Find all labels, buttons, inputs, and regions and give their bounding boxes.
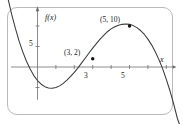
point-label-5-10: (5, 10)	[100, 16, 120, 24]
figure-canvas: f(x) x 5 3 5 (3, 2) (5, 10)	[0, 0, 183, 124]
function-curve	[8, 0, 183, 124]
y-axis-arrow	[36, 6, 40, 11]
x-axis-label: x	[160, 56, 164, 64]
y-tick-label-5: 5	[29, 40, 33, 48]
y-axis-label: f(x)	[45, 14, 56, 22]
axes-group	[11, 6, 176, 99]
curve-group	[8, 0, 183, 124]
x-axis-arrow	[173, 65, 177, 69]
point-marker-3-2	[91, 57, 94, 60]
point-marker-5-10	[128, 24, 131, 27]
point-label-3-2: (3, 2)	[64, 49, 80, 57]
x-tick-label-5: 5	[121, 72, 125, 80]
x-tick-label-3: 3	[84, 72, 88, 80]
graph-plot	[0, 0, 183, 124]
